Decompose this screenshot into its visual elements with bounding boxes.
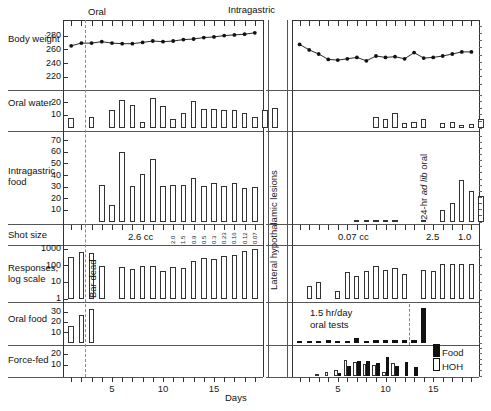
responses-y-ticklabel: 1	[35, 293, 61, 304]
bar	[170, 267, 176, 299]
bodyweight-y-ticklabel: 260	[35, 44, 61, 55]
bar	[469, 191, 474, 222]
bar	[68, 257, 74, 299]
bar-food	[395, 366, 399, 376]
bar	[242, 113, 248, 128]
shotsize-right-xtick-tick	[376, 225, 377, 230]
shotsize-left-main: 2.6 cc	[128, 231, 153, 242]
xaxis-right-tick	[328, 377, 329, 382]
bar	[89, 309, 95, 343]
minor-tick	[479, 154, 482, 155]
bar	[421, 220, 426, 222]
xaxis-right-label: 15	[428, 383, 439, 394]
oralwater-left-bars	[63, 95, 263, 128]
shotsize-left-value: 1.5	[180, 228, 186, 244]
bar-hoh	[315, 374, 319, 376]
xaxis-left-tick	[214, 377, 215, 382]
bar	[211, 259, 217, 299]
minor-tick	[479, 257, 482, 258]
minor-tick	[479, 40, 482, 41]
minor-tick	[479, 376, 482, 377]
xaxis-right-label: 10	[380, 383, 391, 394]
bar	[140, 266, 146, 299]
bar	[392, 268, 397, 299]
bar	[99, 266, 105, 299]
intragastricfood-left-bars	[63, 136, 263, 222]
bar	[191, 261, 197, 299]
bar	[181, 268, 187, 299]
xaxis-right-tick	[357, 377, 358, 382]
minor-tick	[479, 318, 482, 319]
xaxis-right-label: 5	[335, 383, 340, 394]
shotsize-right-xtick-tick	[405, 225, 406, 230]
bar	[150, 266, 156, 299]
minor-tick	[479, 282, 482, 283]
bar	[326, 340, 331, 343]
minor-tick	[479, 306, 482, 307]
xaxis-left-tick	[153, 377, 154, 382]
bar	[252, 187, 258, 222]
minor-tick	[479, 274, 482, 275]
xaxis-right-tick	[347, 377, 348, 382]
intragastricfood-right-bars	[292, 136, 479, 222]
bar	[316, 341, 321, 343]
bar	[68, 326, 74, 343]
legend: FoodHOH	[433, 344, 479, 372]
bar	[421, 270, 426, 299]
xaxis-right-tick	[386, 377, 387, 382]
bar-food	[366, 361, 370, 376]
xaxis-left-tick	[204, 377, 205, 382]
bar	[392, 220, 397, 222]
bar	[221, 110, 227, 128]
intragastricfood-y-ticklabel: 30	[35, 181, 61, 192]
legend-swatch-hoh	[433, 358, 440, 371]
forcefed-y-ticklabel: 10	[35, 359, 61, 370]
bar	[109, 205, 115, 222]
responses-y-ticklabel: 100	[35, 260, 61, 271]
xaxis-left-tick	[92, 377, 93, 382]
bodyweight-left-line	[63, 26, 263, 84]
bar	[252, 249, 258, 299]
bar	[211, 183, 217, 223]
left-phase-divider	[85, 20, 86, 377]
shotsize-left-xtick-tick	[81, 225, 82, 230]
shotsize-left-xtick-tick	[92, 225, 93, 230]
bar-food	[347, 366, 351, 376]
minor-tick	[479, 84, 482, 85]
bar	[431, 271, 436, 299]
bar	[440, 210, 445, 222]
shotsize-right-xtick-tick	[452, 225, 453, 230]
oralfood-y-ticklabel: 20	[35, 316, 61, 327]
minor-tick	[479, 114, 482, 115]
bar	[232, 110, 238, 128]
forcefed-y-tick	[63, 354, 68, 355]
bar	[99, 185, 105, 222]
minor-tick	[479, 62, 482, 63]
bar	[335, 341, 340, 343]
bar	[242, 251, 248, 299]
minor-tick	[479, 166, 482, 167]
panel-divider	[266, 90, 479, 91]
shotsize-left-xtick-tick	[122, 225, 123, 230]
minor-tick	[479, 47, 482, 48]
bar	[402, 274, 407, 299]
bar	[421, 119, 426, 128]
shotsize-right-xtick-tick	[395, 225, 396, 230]
bar	[373, 266, 378, 299]
bar	[119, 267, 125, 299]
shotsize-right-value-1: 2.5	[426, 231, 439, 242]
bar	[242, 188, 248, 222]
shotsize-right-xtick-tick	[471, 225, 472, 230]
oralwater-y-ticklabel: 10	[35, 109, 61, 120]
bar	[232, 255, 238, 299]
minor-tick	[479, 69, 482, 70]
shotsize-left-xtick-tick	[153, 225, 154, 230]
bar-food	[386, 357, 390, 376]
bar-hoh	[325, 372, 329, 376]
legend-item: HOH	[433, 358, 479, 372]
bar	[450, 264, 455, 299]
bar	[364, 220, 369, 222]
xaxis-left-label: 15	[209, 383, 220, 394]
bar	[160, 271, 166, 299]
bar	[383, 119, 388, 128]
